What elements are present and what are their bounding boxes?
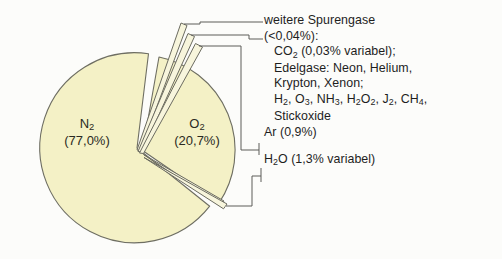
slice-label-o2-value: (20,7%)	[174, 133, 220, 148]
legend-line-trace-gases-title: weitere Spurengase	[264, 13, 502, 29]
legend-line-other-compounds: H2, O3, NH3, H2O2, J2, CH4,	[264, 92, 502, 109]
leader-line-h2o	[226, 176, 261, 206]
legend-line-co2: CO2 (0,03% variabel);	[264, 44, 502, 61]
legend-line-water: H2O (1,3% variabel)	[264, 152, 502, 169]
air-composition-figure: .pieslice { fill: #f4f1c6; stroke: #6e6e…	[0, 0, 502, 259]
legend-line-trace-gases-amount: (<0,04%):	[264, 29, 502, 45]
slice-label-o2: O2 (20,7%)	[156, 116, 238, 148]
legend-line-argon: Ar (0,9%)	[264, 125, 502, 141]
leader-line-trace-gases-2	[191, 35, 263, 39]
legend-line-noble-gases-cont: Krypton, Xenon;	[264, 76, 502, 92]
slice-label-n2-formula: N2	[80, 116, 95, 131]
legend-annotations: weitere Spurengase (<0,04%): CO2 (0,03% …	[264, 13, 502, 168]
legend-line-noble-gases: Edelgase: Neon, Helium,	[264, 61, 502, 77]
slice-label-n2: N2 (77,0%)	[44, 116, 130, 148]
legend-line-stickoxide: Stickoxide	[264, 109, 502, 125]
leader-line-trace-gases	[184, 22, 263, 24]
slice-label-n2-value: (77,0%)	[64, 133, 110, 148]
slice-label-o2-formula: O2	[189, 116, 204, 131]
